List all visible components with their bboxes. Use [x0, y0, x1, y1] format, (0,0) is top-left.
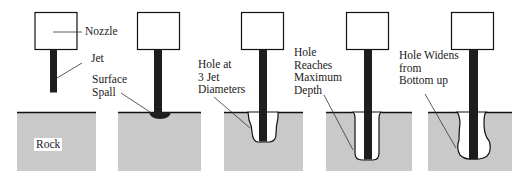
jet-drilling-diagram: Nozzle Jet Rock Surface Spall Hole at 3 … [0, 0, 524, 179]
nozzle-box [242, 13, 284, 50]
surface-spall-label: Surface Spall [92, 73, 127, 98]
hole-3-jet-label: Hole at 3 Jet Diameters [198, 58, 245, 96]
diagram-canvas [0, 0, 524, 179]
jet-label: Jet [91, 52, 104, 65]
rock-label: Rock [34, 138, 62, 151]
stage-2 [118, 13, 201, 172]
hole-max-depth-label: Hole Reaches Maximum Depth [294, 46, 342, 96]
jet-stream [154, 50, 162, 114]
jet-stream [259, 50, 267, 142]
nozzle-box [347, 13, 389, 50]
jet-stream [469, 50, 478, 160]
rock-block [118, 112, 201, 171]
nozzle-box [452, 13, 494, 50]
jet-stream [50, 50, 57, 93]
nozzle-label: Nozzle [85, 25, 118, 38]
nozzle-box [138, 13, 180, 50]
stage-5 [425, 13, 512, 172]
jet-stream [364, 50, 372, 160]
jet-leader [57, 63, 82, 78]
hole-widens-label: Hole Widens from Bottom up [399, 49, 459, 87]
nozzle-box [35, 13, 77, 50]
